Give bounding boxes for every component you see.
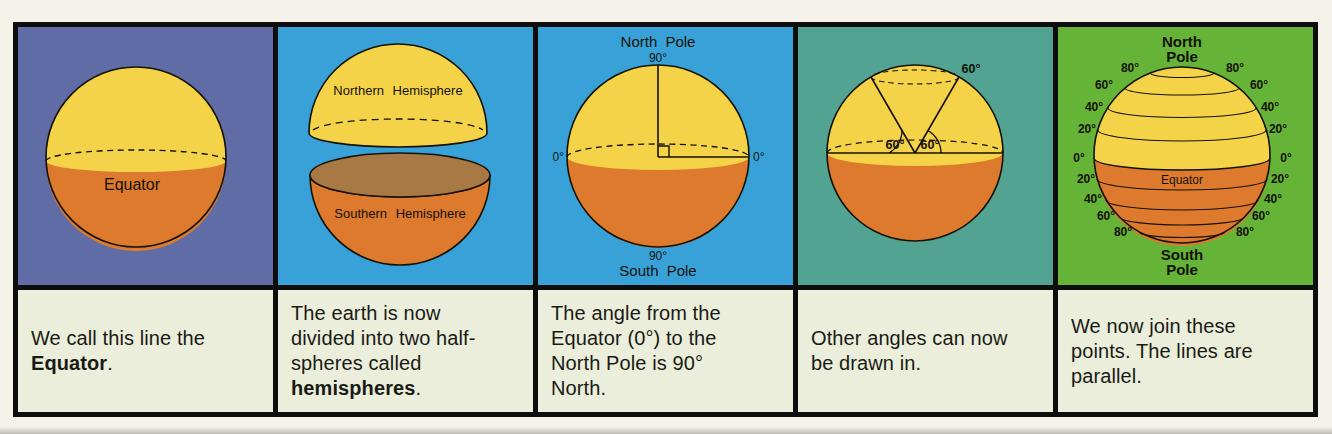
equator-label: Equator <box>104 176 161 193</box>
northern-hemisphere-label: Northern Hemisphere <box>333 83 462 98</box>
latitude-label-left-0: 0° <box>1073 151 1085 165</box>
latitude-label-right-60n: 60° <box>1250 78 1268 92</box>
latitude-label-left-60s: 60° <box>1097 209 1115 223</box>
latitude-label-right-60s: 60° <box>1252 209 1270 223</box>
panel2-caption: The earth is now divided into two half-s… <box>278 290 533 412</box>
panel5-caption-text: We now join these points. The lines are … <box>1071 314 1277 389</box>
north-pole-label: North Pole <box>621 33 696 50</box>
latitude-label-left-80s: 80° <box>1114 225 1132 239</box>
latitude-label-right-40n: 40° <box>1261 100 1279 114</box>
sixty-degrees-left-label: 60° <box>886 138 905 152</box>
latitude-label-left-40n: 40° <box>1085 100 1103 114</box>
south-pole-label: South Pole <box>619 262 696 279</box>
latitude-label-left-20s: 20° <box>1077 172 1095 186</box>
panel5-figure-parallels: Equator North Pole South Pole 80° 60° 40… <box>1058 27 1313 285</box>
panel1-svg: Equator <box>18 27 273 285</box>
panel1-figure-globe-equator: Equator <box>18 27 273 285</box>
latitude-label-left-40s: 40° <box>1084 192 1102 206</box>
latitude-label-right-40s: 40° <box>1264 192 1282 206</box>
panel2-svg: Northern Hemisphere Southern Hemisphere <box>278 27 533 285</box>
latitude-label-left-20n: 20° <box>1078 122 1096 136</box>
latitude-label-left-60n: 60° <box>1095 78 1113 92</box>
latitude-label-left-80n: 80° <box>1121 61 1139 75</box>
panel4-svg: 60° 60° 60° <box>798 27 1053 285</box>
equator-label: Equator <box>1161 173 1203 187</box>
panel3-figure-right-angle: North Pole 90° 0° 0° 90° South Pole <box>538 27 793 285</box>
latitude-label-right-20s: 20° <box>1271 172 1289 186</box>
panel3-caption: The angle from the Equator (0°) to the N… <box>538 290 793 412</box>
panel4-figure-other-angles: 60° 60° 60° <box>798 27 1053 285</box>
panel4-caption-text: Other angles can now be drawn in. <box>811 326 1017 376</box>
panel1-caption-text: We call this line the Equator. <box>31 326 237 376</box>
latitude-label-right-0: 0° <box>1280 151 1292 165</box>
diagram-sheet: Equator Northern Hemisphere Southern Hem… <box>0 0 1332 434</box>
panel3-svg: North Pole 90° 0° 0° 90° South Pole <box>538 27 793 285</box>
panel5-caption: We now join these points. The lines are … <box>1058 290 1313 412</box>
panel2-caption-text: The earth is now divided into two half-s… <box>291 301 497 401</box>
southern-hemisphere-label: Southern Hemisphere <box>334 206 465 221</box>
north-pole-label-line2: Pole <box>1166 48 1198 65</box>
latitude-label-right-80s: 80° <box>1236 225 1254 239</box>
latitude-label-right-80n: 80° <box>1226 61 1244 75</box>
sixty-degrees-right-label: 60° <box>921 138 940 152</box>
panel1-caption: We call this line the Equator. <box>18 290 273 412</box>
south-pole-label-line2: Pole <box>1166 261 1198 278</box>
panel4-caption: Other angles can now be drawn in. <box>798 290 1053 412</box>
bowl-cut-face <box>310 153 490 197</box>
panel2-figure-hemispheres: Northern Hemisphere Southern Hemisphere <box>278 27 533 285</box>
sixty-degrees-outer-label: 60° <box>962 62 981 76</box>
zero-degrees-left-label: 0° <box>553 150 565 164</box>
latitude-label-right-20n: 20° <box>1269 122 1287 136</box>
panel3-caption-text: The angle from the Equator (0°) to the N… <box>551 301 757 401</box>
ninety-degrees-bottom-label: 90° <box>649 249 667 263</box>
panel5-svg: Equator North Pole South Pole 80° 60° 40… <box>1058 27 1313 285</box>
panel-grid-frame: Equator Northern Hemisphere Southern Hem… <box>13 22 1318 417</box>
zero-degrees-right-label: 0° <box>753 150 765 164</box>
ninety-degrees-top-label: 90° <box>649 51 667 65</box>
